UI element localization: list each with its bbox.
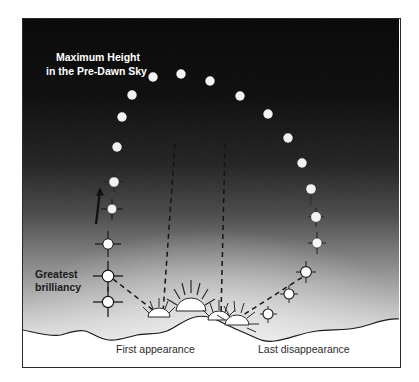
marker-arc-1 [112,142,121,151]
greatest-brilliancy-line-2: brilliancy [35,281,81,293]
title-line-1: Maximum Height [56,51,141,63]
marker-arc-4 [148,72,157,81]
figure-stage: Maximum Height in the Pre-Dawn Sky Great… [0,0,419,382]
marker-arc-8 [263,109,272,118]
marker-arc-6 [205,76,214,85]
marker-arc-7 [235,91,244,100]
astronomy-apparition-diagram: Maximum Height in the Pre-Dawn Sky Great… [23,19,399,366]
marker-arc-9 [283,133,292,142]
marker-arc-10 [297,158,306,167]
title-line-2: in the Pre-Dawn Sky [46,65,147,77]
figure-frame: Maximum Height in the Pre-Dawn Sky Great… [22,18,401,368]
greatest-brilliancy-line-1: Greatest [35,268,78,280]
marker-arc-5 [176,69,185,78]
marker-arc-3 [127,90,136,99]
marker-arc-2 [117,112,126,121]
caption-last-disappearance: Last disappearance [258,343,350,355]
caption-first-appearance: First appearance [116,343,195,355]
